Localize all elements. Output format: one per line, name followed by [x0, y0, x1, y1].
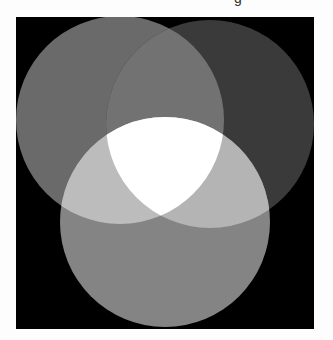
page: g [0, 0, 333, 340]
venn-figure [16, 17, 314, 329]
caption-fragment: g [234, 0, 242, 5]
venn-diagram [16, 17, 314, 329]
